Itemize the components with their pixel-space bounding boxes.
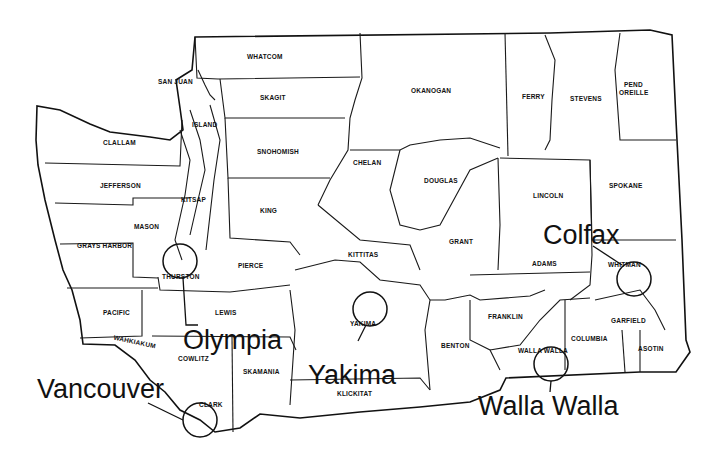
county-label: COLUMBIA (571, 335, 608, 342)
county-label: SKAGIT (260, 94, 286, 101)
county-label: CLALLAM (103, 139, 136, 146)
county-label: SKAMANIA (243, 368, 280, 375)
vancouver-leader-line (148, 403, 183, 420)
city-label-walla-walla: Walla Walla (478, 391, 620, 421)
county-label: ASOTIN (638, 345, 664, 352)
county-label: FRANKLIN (488, 313, 523, 320)
county-label: WHATCOM (247, 53, 283, 60)
county-label: STEVENS (570, 95, 602, 102)
county-label: SPOKANE (609, 182, 643, 189)
puget-sound-shoreline (175, 70, 220, 260)
county-label: ISLAND (192, 121, 217, 128)
county-label: KING (260, 207, 277, 214)
county-label: KITTITAS (348, 251, 379, 258)
city-label-yakima: Yakima (308, 360, 397, 390)
county-label: COWLITZ (178, 355, 209, 362)
county-label: GRAYS HARBOR (77, 242, 132, 249)
county-label: OKANOGAN (411, 87, 451, 94)
county-label: KITSAP (181, 196, 206, 203)
county-label: SNOHOMISH (257, 148, 299, 155)
county-label: GARFIELD (611, 317, 646, 324)
county-label: OREILLE (619, 89, 649, 96)
county-label: LINCOLN (533, 192, 563, 199)
county-label: GRANT (449, 238, 473, 245)
washington-map: WHATCOM SAN JUAN SKAGIT ISLAND CLALLAM S… (0, 0, 714, 460)
county-label: THURSTON (162, 273, 200, 280)
county-label: JEFFERSON (100, 182, 141, 189)
city-label-olympia: Olympia (183, 325, 283, 355)
county-label: PACIFIC (103, 309, 130, 316)
county-label: FERRY (522, 93, 545, 100)
map-canvas: WHATCOM SAN JUAN SKAGIT ISLAND CLALLAM S… (0, 0, 714, 460)
county-label: LEWIS (215, 309, 237, 316)
county-label: KLICKITAT (337, 390, 372, 397)
county-label: PIERCE (238, 262, 264, 269)
county-label: BENTON (441, 342, 470, 349)
county-label: PEND (624, 81, 643, 88)
yakima-leader-line (358, 325, 366, 341)
city-label-vancouver: Vancouver (37, 374, 164, 404)
city-label-colfax: Colfax (543, 220, 620, 250)
county-label: ADAMS (532, 260, 557, 267)
city-labels: Olympia Yakima Vancouver Colfax Walla Wa… (37, 220, 620, 421)
olympia-leader-line (183, 278, 198, 325)
county-label: MASON (134, 223, 159, 230)
county-label: SAN JUAN (158, 78, 193, 85)
county-label: CHELAN (353, 159, 381, 166)
county-label: DOUGLAS (424, 177, 458, 184)
